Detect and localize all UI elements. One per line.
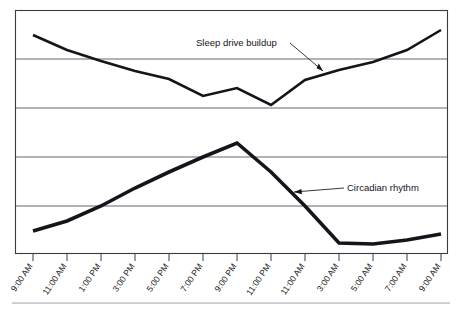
x-tick-label-10: 5:00 AM — [349, 262, 375, 294]
x-tick-label-7: 11:00 PM — [244, 262, 273, 298]
x-tick-label-9: 3:00 AM — [315, 262, 341, 294]
x-tick-label-4: 5:00 PM — [144, 262, 170, 294]
x-axis-ticks — [33, 253, 441, 261]
x-tick-label-12: 9:00 AM — [417, 262, 443, 294]
x-tick-label-0: 9:00 AM — [9, 262, 35, 294]
x-axis-tick-labels: 9:00 AM 11:00 AM 1:00 PM 3:00 PM 5:00 PM… — [9, 262, 443, 298]
x-tick-label-8: 11:00 AM — [278, 262, 306, 297]
x-tick-label-3: 3:00 PM — [110, 262, 136, 294]
circadian-annotation-label: Circadian rhythm — [347, 182, 419, 193]
x-tick-label-11: 7:00 AM — [383, 262, 409, 294]
chart-canvas: Sleep drive buildup Circadian rhythm 9:0… — [0, 0, 462, 311]
x-tick-label-2: 1:00 PM — [76, 262, 102, 294]
chart-figure: Sleep drive buildup Circadian rhythm 9:0… — [0, 0, 462, 311]
x-tick-label-1: 11:00 AM — [40, 262, 68, 297]
footer-divider — [12, 302, 450, 304]
x-tick-label-5: 7:00 PM — [178, 262, 204, 294]
sleep-drive-annotation-label: Sleep drive buildup — [196, 37, 277, 48]
x-tick-label-6: 9:00 PM — [212, 262, 238, 294]
